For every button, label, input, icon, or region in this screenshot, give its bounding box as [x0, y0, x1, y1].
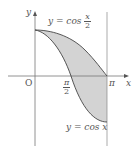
y-axis-label: y	[26, 8, 31, 17]
cos-half-label: y = cos x2	[48, 13, 91, 30]
x-axis-label: x	[126, 79, 131, 88]
half-pi-tick-label: π2	[63, 79, 70, 96]
cos-label: y = cos x	[66, 123, 107, 132]
pi-tick-label: π	[109, 79, 115, 88]
y-axis-arrow	[33, 11, 37, 16]
origin-label: O	[25, 79, 32, 88]
